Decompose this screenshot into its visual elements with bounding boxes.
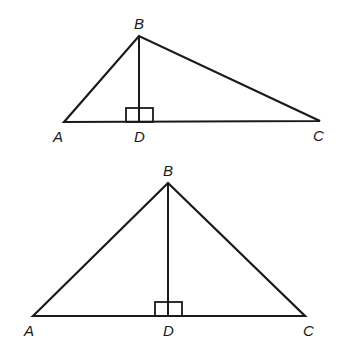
triangle-abc-top [64, 36, 320, 122]
label-c-bottom: C [303, 322, 314, 339]
label-b-top: B [134, 15, 144, 32]
label-c-top: C [313, 127, 324, 144]
diagram-canvas: B A D C B A D C [0, 0, 342, 358]
label-d-top: D [134, 128, 145, 145]
label-a-bottom: A [23, 322, 34, 339]
label-b-bottom: B [163, 162, 173, 179]
label-a-top: A [52, 128, 63, 145]
bottom-triangle: B A D C [23, 162, 314, 339]
top-triangle: B A D C [52, 15, 324, 145]
label-d-bottom: D [163, 322, 174, 339]
